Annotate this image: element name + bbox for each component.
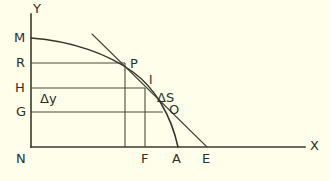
geometry-figure: Y X M R H G N P I O F A E Δy ΔS	[0, 0, 330, 181]
point-label-i: I	[149, 74, 153, 86]
tangent-line	[92, 34, 207, 147]
point-label-a: A	[172, 152, 181, 165]
x-axis-label: X	[310, 139, 319, 152]
point-label-r: R	[16, 56, 25, 69]
annotation-delta-y: Δy	[40, 92, 57, 105]
point-label-h: H	[15, 81, 25, 94]
point-label-g: G	[16, 105, 26, 118]
annotation-delta-s: ΔS	[157, 91, 175, 104]
point-label-e: E	[202, 152, 210, 165]
y-axis-label: Y	[33, 2, 41, 15]
point-label-m: M	[14, 31, 25, 44]
point-label-p: P	[130, 57, 138, 70]
point-label-f: F	[141, 152, 149, 165]
point-label-n: N	[16, 152, 26, 165]
